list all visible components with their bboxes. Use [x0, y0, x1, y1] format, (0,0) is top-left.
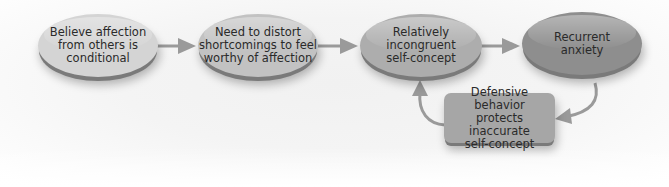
node-label: Recurrent anxiety: [554, 31, 610, 57]
node-believe-affection-conditional: Believe affection from others is conditi…: [38, 14, 158, 77]
arrow-n3-n4: [480, 38, 520, 54]
node-label: Need to distort shortcomings to feel wor…: [199, 26, 317, 65]
node-label: Relatively incongruent self-concept: [386, 26, 456, 65]
node-need-to-distort-shortcomings: Need to distort shortcomings to feel wor…: [198, 14, 318, 77]
node-recurrent-anxiety: Recurrent anxiety: [522, 12, 642, 75]
arrow-n2-n3: [317, 38, 358, 54]
arrow-n5-n3: [412, 80, 445, 125]
node-label: Believe affection from others is conditi…: [50, 26, 146, 65]
node-label: Defensive behavior protects inaccurate s…: [444, 86, 555, 151]
arrow-n1-n2: [157, 38, 196, 54]
node-incongruent-self-concept: Relatively incongruent self-concept: [360, 14, 482, 77]
arrow-n4-n5: [555, 83, 596, 124]
node-defensive-behavior: Defensive behavior protects inaccurate s…: [444, 93, 555, 143]
